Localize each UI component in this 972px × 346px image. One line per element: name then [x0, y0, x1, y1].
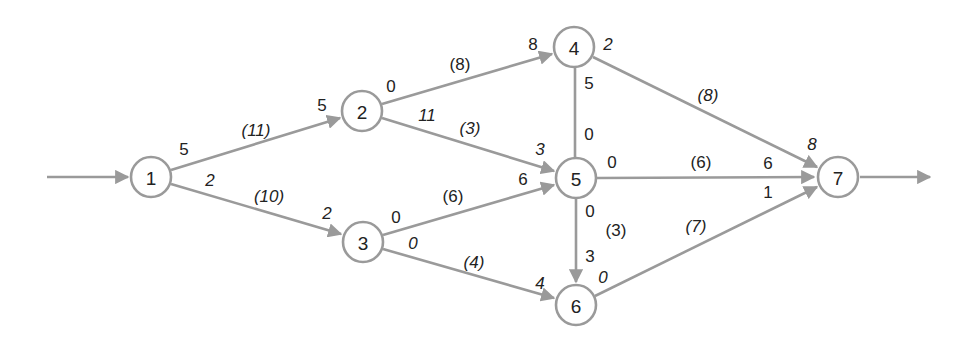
- edge-3-5-duration: (6): [443, 187, 464, 206]
- edge-5-7-start: 0: [607, 153, 616, 172]
- node-4-label: 4: [569, 38, 580, 59]
- edge-4-7: [593, 57, 817, 167]
- edge-5-7-end: 6: [763, 154, 772, 173]
- edge-4-5-end: 0: [584, 125, 593, 144]
- edge-6-7: [595, 187, 817, 296]
- node-7: 7: [818, 157, 858, 197]
- edge-4-7-end: 8: [807, 135, 817, 154]
- edge-6-7-start: 0: [598, 268, 608, 287]
- node-6-label: 6: [571, 296, 582, 317]
- edge-1-2-end: 5: [317, 96, 326, 115]
- edge-6-7-end: 1: [763, 183, 772, 202]
- edge-4-5-start: 5: [584, 74, 593, 93]
- edge-1-2-start: 5: [179, 140, 188, 159]
- edge-1-3-start: 2: [204, 171, 215, 190]
- node-3: 3: [343, 222, 383, 262]
- edge-3-5-start: 0: [391, 208, 400, 227]
- edge-6-7-duration: (7): [686, 217, 707, 236]
- node-2-label: 2: [357, 102, 368, 123]
- edge-5-6-start: 0: [585, 202, 594, 221]
- edge-4-7-duration: (8): [698, 86, 719, 105]
- edge-2-5-end: 3: [535, 140, 545, 159]
- edge-1-2-duration: (11): [242, 121, 271, 140]
- node-1-label: 1: [146, 168, 157, 189]
- node-5: 5: [556, 158, 596, 198]
- edge-3-5-end: 6: [518, 170, 527, 189]
- edge-2-5-duration: (3): [460, 119, 481, 138]
- edge-2-4-end: 8: [528, 35, 537, 54]
- edge-3-5: [383, 185, 554, 235]
- edge-4-7-start: 2: [602, 35, 613, 54]
- edge-5-7-duration: (6): [691, 153, 712, 172]
- node-2: 2: [342, 91, 382, 131]
- edge-1-3-duration: (10): [254, 187, 284, 206]
- node-3-label: 3: [358, 233, 369, 254]
- network-diagram: 1 2 3 4 5 6 7 5 (11) 5 2 (10) 2 0 (8) 8 …: [0, 0, 972, 346]
- edge-3-6-start: 0: [408, 234, 418, 253]
- node-4: 4: [554, 27, 594, 67]
- node-5-label: 5: [571, 169, 582, 190]
- node-7-label: 7: [833, 168, 844, 189]
- edge-3-6-end: 4: [535, 274, 544, 293]
- edge-1-3-end: 2: [321, 204, 332, 223]
- node-1: 1: [131, 157, 171, 197]
- edge-2-5-start: 11: [418, 106, 436, 125]
- edge-5-6-duration: (3): [606, 221, 627, 240]
- edge-3-6-duration: (4): [464, 253, 485, 272]
- node-6: 6: [556, 285, 596, 325]
- edge-2-4-start: 0: [386, 77, 395, 96]
- edge-5-6-end: 3: [585, 247, 594, 266]
- edge-5-7: [597, 177, 814, 178]
- edge-2-4-duration: (8): [450, 55, 471, 74]
